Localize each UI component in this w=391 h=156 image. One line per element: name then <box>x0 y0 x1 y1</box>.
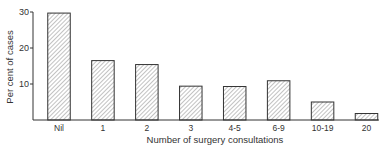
y-axis-title: Per cent of cases <box>4 30 15 104</box>
bar-4-5 <box>223 87 246 120</box>
bar-1 <box>92 61 115 120</box>
x-tick-label: 1 <box>101 123 106 133</box>
y-tick-label: 10 <box>19 79 29 89</box>
x-tick-label: 4-5 <box>229 123 242 133</box>
bar-10-19 <box>311 102 334 120</box>
bar-20 <box>355 114 378 120</box>
x-axis: Nil1234-56-910-1920 <box>33 120 379 133</box>
x-tick-label: 10-19 <box>312 123 334 133</box>
x-tick-label: 2 <box>144 123 149 133</box>
y-axis: 102030 <box>19 7 33 120</box>
bar-Nil <box>48 13 71 120</box>
x-tick-label: Nil <box>54 123 64 133</box>
x-axis-title: Number of surgery consultations <box>147 134 284 145</box>
y-tick-label: 30 <box>19 7 29 17</box>
x-tick-label: 3 <box>188 123 193 133</box>
y-tick-label: 20 <box>19 43 29 53</box>
x-tick-label: 6-9 <box>272 123 285 133</box>
bar-2 <box>136 65 159 120</box>
x-tick-label: 20 <box>362 123 372 133</box>
bar-3 <box>180 86 203 120</box>
bar-chart: 102030 Nil1234-56-910-1920 Per cent of c… <box>0 0 391 156</box>
bars <box>48 13 378 120</box>
bar-6-9 <box>267 81 290 120</box>
